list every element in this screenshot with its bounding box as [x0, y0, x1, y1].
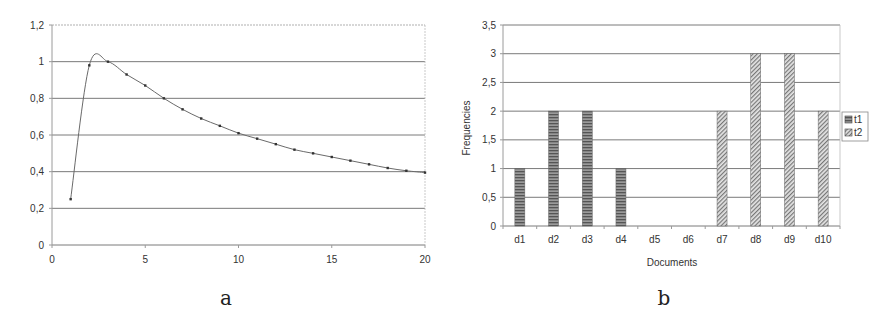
a-y-tick-labels: 00,20,40,60,811,2	[30, 20, 44, 251]
a-data-point	[237, 132, 239, 134]
b-x-tick: d7	[716, 234, 728, 245]
a-data-point	[387, 167, 389, 169]
a-data-point	[349, 159, 351, 161]
bar-t2-d10	[818, 111, 828, 226]
b-y-axis-label: Frequencies	[461, 100, 472, 155]
legend-label-t1: t1	[854, 114, 863, 125]
a-y-tick: 1,2	[30, 20, 44, 31]
a-data-point	[368, 163, 370, 165]
b-x-tick: d5	[649, 234, 661, 245]
b-x-tick: d8	[750, 234, 762, 245]
b-y-tick: 1,5	[482, 134, 496, 145]
a-x-tick-labels: 05101520	[49, 254, 431, 265]
b-legend: t1 t2	[842, 112, 868, 141]
a-data-point	[275, 143, 277, 145]
a-data-point	[256, 137, 258, 139]
figure: 00,20,40,60,811,2 05101520 a 00,511,522,…	[0, 0, 886, 334]
b-x-tick: d9	[784, 234, 796, 245]
legend-swatch-t1	[845, 116, 852, 123]
b-y-tick: 2,5	[482, 77, 496, 88]
caption-b: b	[658, 286, 671, 310]
bar-t1-d3	[582, 111, 592, 226]
a-y-tick: 1	[38, 56, 44, 67]
a-data-point	[144, 84, 146, 86]
a-data-point	[331, 156, 333, 158]
b-x-tick: d2	[548, 234, 560, 245]
a-data-line	[71, 54, 425, 199]
b-x-axis-label: Documents	[647, 257, 698, 268]
b-y-tick: 0	[490, 221, 496, 232]
b-y-tick: 3,5	[482, 20, 496, 31]
a-data-point	[88, 64, 90, 66]
a-x-tick: 15	[326, 254, 338, 265]
bar-chart-b: 00,511,522,533,5 d1d2d3d4d5d6d7d8d9d10 D…	[461, 20, 868, 311]
a-data-point	[69, 198, 71, 200]
bar-t1-d2	[549, 111, 559, 226]
b-x-tick: d1	[514, 234, 526, 245]
a-x-tick: 10	[233, 254, 245, 265]
a-x-tick: 0	[49, 254, 55, 265]
a-gridlines	[49, 25, 425, 245]
a-data-point	[181, 108, 183, 110]
a-y-tick: 0	[38, 240, 44, 251]
b-x-tick: d6	[683, 234, 695, 245]
a-data-point	[107, 60, 109, 62]
a-y-tick: 0,8	[30, 93, 44, 104]
a-data-point	[405, 170, 407, 172]
a-data-point	[293, 148, 295, 150]
legend-label-t2: t2	[854, 127, 863, 138]
a-data-point	[163, 97, 165, 99]
a-y-tick: 0,2	[30, 203, 44, 214]
b-y-tick: 0,5	[482, 192, 496, 203]
caption-a: a	[220, 286, 232, 310]
bar-t2-d9	[784, 54, 794, 226]
a-y-tick: 0,4	[30, 166, 44, 177]
b-x-tick: d10	[815, 234, 832, 245]
bar-t1-d4	[616, 169, 626, 226]
b-y-tick: 1	[490, 163, 496, 174]
bar-t2-d8	[751, 54, 761, 226]
a-axes	[52, 25, 425, 248]
a-y-tick: 0,6	[30, 130, 44, 141]
a-data-point	[200, 117, 202, 119]
b-x-tick-labels: d1d2d3d4d5d6d7d8d9d10	[514, 234, 832, 245]
a-data-point	[219, 125, 221, 127]
a-data-points	[69, 60, 426, 200]
b-y-tick: 2	[490, 106, 496, 117]
b-x-tick: d3	[582, 234, 594, 245]
line-chart-a: 00,20,40,60,811,2 05101520 a	[30, 20, 431, 311]
legend-swatch-t2	[845, 129, 852, 136]
a-data-point	[125, 73, 127, 75]
bar-t2-d7	[717, 111, 727, 226]
a-data-point	[312, 152, 314, 154]
b-y-tick-labels: 00,511,522,533,5	[482, 20, 496, 232]
b-x-tick: d4	[615, 234, 627, 245]
a-data-point	[424, 171, 426, 173]
a-x-tick: 5	[142, 254, 148, 265]
b-y-tick: 3	[490, 48, 496, 59]
bar-t1-d1	[515, 169, 525, 226]
a-x-tick: 20	[419, 254, 431, 265]
